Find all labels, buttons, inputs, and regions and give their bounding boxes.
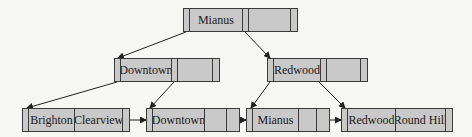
- internal-node-downtown: Downtown: [114, 58, 220, 82]
- key-cell: Round Hill: [396, 109, 446, 131]
- pointer-cell: [123, 109, 129, 131]
- leaf-node-2: Downtown: [146, 108, 240, 132]
- edge-downtown-leaf1: [27, 82, 117, 108]
- key-cell: Brighton: [29, 109, 75, 131]
- key-cell: Mianus: [253, 109, 299, 131]
- edge-root-redwood: [245, 32, 270, 58]
- leaf-node-1: Brighton Clearview: [22, 108, 130, 132]
- leaf-node-4: Redwood Round Hill: [341, 108, 453, 132]
- key-cell: [249, 9, 291, 31]
- pointer-cell: [291, 9, 297, 31]
- edge-redwood-leaf3: [251, 82, 270, 108]
- key-cell: Downtown: [121, 59, 172, 81]
- key-cell: Redwood: [348, 109, 396, 131]
- pointer-cell: [213, 59, 219, 81]
- edge-root-downtown: [118, 32, 186, 58]
- key-cell: [327, 59, 361, 81]
- root-node: Mianus: [183, 8, 298, 32]
- key-cell: [178, 59, 213, 81]
- key-cell: Mianus: [190, 9, 243, 31]
- leaf-node-3: Mianus: [246, 108, 330, 132]
- pointer-cell: [227, 109, 233, 131]
- edge-redwood-leaf4: [319, 82, 345, 108]
- key-cell: [205, 109, 227, 131]
- key-cell: Redwood: [274, 59, 321, 81]
- key-cell: Clearview: [75, 109, 123, 131]
- edge-downtown-leaf2: [150, 82, 174, 108]
- key-cell: Downtown: [153, 109, 205, 131]
- internal-node-redwood: Redwood: [267, 58, 368, 82]
- key-cell: [299, 109, 317, 131]
- pointer-cell: [317, 109, 323, 131]
- pointer-cell: [446, 109, 452, 131]
- pointer-cell: [361, 59, 367, 81]
